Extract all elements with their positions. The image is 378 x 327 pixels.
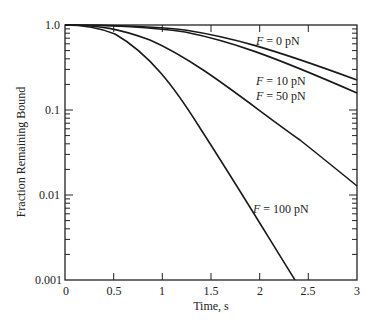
curve-label-f10: F = 10 pN xyxy=(255,74,306,88)
y-axis-ticks xyxy=(65,29,357,255)
x-tick-label: 2 xyxy=(257,284,263,298)
x-tick-label: 0.5 xyxy=(107,284,122,298)
x-tick-label: 1 xyxy=(159,284,165,298)
curve-f100 xyxy=(65,25,295,280)
curve-label-f100: F = 100 pN xyxy=(252,202,309,216)
x-tick-label: 2.5 xyxy=(301,284,316,298)
curves xyxy=(65,25,357,280)
curve-f50 xyxy=(65,25,357,186)
x-tick-label: 0 xyxy=(63,284,69,298)
y-tick-label: 0.01 xyxy=(39,188,60,202)
curve-label-f0: F = 0 pN xyxy=(255,34,300,48)
x-tick-label: 3 xyxy=(354,284,360,298)
x-axis-ticks xyxy=(114,25,309,280)
x-axis-label: Time, s xyxy=(193,299,229,313)
curve-label-f50: F = 50 pN xyxy=(255,89,306,103)
y-tick-label: 1.0 xyxy=(45,18,60,32)
y-tick-label: 0.1 xyxy=(45,103,60,117)
y-axis-label: Fraction Remaining Bound xyxy=(14,87,28,218)
x-tick-label: 1.5 xyxy=(204,284,219,298)
plot-area xyxy=(65,25,357,280)
y-tick-label: 0.001 xyxy=(35,273,62,287)
curve-f0 xyxy=(65,25,357,80)
chart: 1.0 0.1 0.01 0.001 0 0.5 1 1.5 2 2.5 3 T… xyxy=(0,0,378,327)
